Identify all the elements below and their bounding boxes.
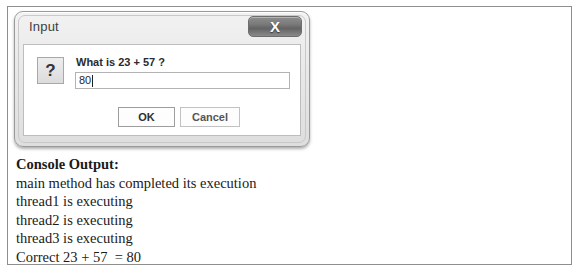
dialog-titlebar[interactable]: Input X (20, 16, 304, 42)
console-output-heading: Console Output: (16, 155, 416, 174)
console-line: thread1 is executing (16, 192, 416, 211)
close-button[interactable]: X (248, 16, 302, 37)
answer-input-value: 80 (76, 75, 91, 86)
prompt-label: What is 23 + 57 ? (76, 56, 165, 68)
console-line: Correct 23 + 57 = 80 (16, 248, 416, 267)
console-line: thread3 is executing (16, 229, 416, 248)
dialog-content-panel: ? What is 23 + 57 ? 80 OK Cancel (23, 44, 301, 136)
input-dialog: Input X ? What is 23 + 57 ? 80 OK Cancel (14, 11, 310, 147)
cancel-button[interactable]: Cancel (180, 107, 240, 127)
console-line: main method has completed its execution (16, 174, 416, 193)
question-mark-icon: ? (37, 57, 64, 84)
figure-frame: Input X ? What is 23 + 57 ? 80 OK Cancel… (7, 6, 572, 265)
console-line: thread2 is executing (16, 211, 416, 230)
ok-button[interactable]: OK (118, 107, 175, 127)
text-caret (92, 75, 93, 87)
question-mark-glyph: ? (45, 62, 55, 79)
answer-input[interactable]: 80 (75, 72, 290, 89)
dialog-title: Input (29, 19, 59, 34)
console-output: Console Output: main method has complete… (16, 155, 416, 267)
close-icon: X (270, 19, 280, 34)
